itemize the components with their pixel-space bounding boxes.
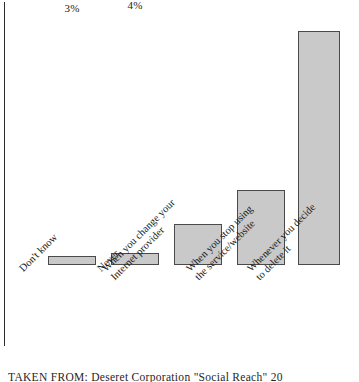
bar-rect[interactable]: [48, 256, 96, 265]
bar-value-label: 3%: [48, 2, 96, 14]
bar-group: 3%: [48, 0, 96, 266]
bar-group: 13%: [174, 0, 222, 266]
bar-value-label: 4%: [111, 0, 159, 11]
x-axis-category-labels: Don't know Never When you change your In…: [0, 266, 359, 356]
source-caption: TAKEN FROM: Deseret Corporation "Social …: [8, 371, 359, 382]
bar-chart-figure: 3% 4% 13% 24% 75% Don't know Never: [0, 0, 359, 382]
